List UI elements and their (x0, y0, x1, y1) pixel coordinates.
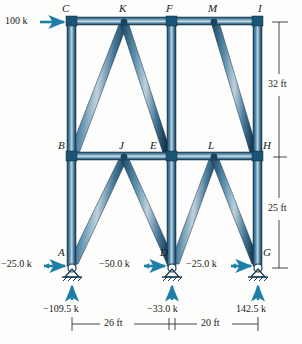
reaction-label-h-G: −25.0 k (186, 259, 217, 269)
node-label-B: B (58, 140, 65, 151)
reaction-label-v-D: −33.0 k (147, 304, 178, 314)
truss-diagram-figure: C K F M I B J E L H A D G 100 k −25.0 k … (0, 0, 302, 344)
dimension-label-25ft: 25 ft (268, 203, 287, 213)
node-label-J: J (119, 140, 124, 151)
reaction-arrow-v-A (69, 286, 75, 300)
reaction-arrow-v-G (255, 286, 261, 300)
dimension-label-32ft: 32 ft (268, 79, 287, 89)
dimension-label-26ft: 26 ft (104, 318, 123, 328)
node-label-C: C (62, 3, 69, 14)
reaction-label-h-D: −50.0 k (99, 259, 130, 269)
dimension-lines-vertical (272, 22, 288, 268)
reaction-arrow-h-A (44, 263, 65, 269)
node-label-H: H (263, 140, 271, 151)
truss-drawing (0, 0, 302, 344)
reaction-arrow-h-G (231, 263, 251, 269)
node-label-K: K (119, 3, 126, 14)
dimension-label-20ft: 20 ft (201, 318, 220, 328)
node-label-I: I (258, 3, 262, 14)
reaction-label-v-G: 142.5 k (236, 304, 266, 314)
reaction-label-v-A: −109.5 k (43, 304, 79, 314)
node-label-L: L (208, 140, 214, 151)
node-label-A: A (58, 247, 65, 258)
reaction-arrow-v-D (169, 286, 175, 300)
load-label-100k: 100 k (5, 16, 28, 26)
truss-diagonal-members (68, 22, 260, 264)
node-label-M: M (208, 3, 217, 14)
dimension-lines-horizontal (72, 317, 258, 331)
reaction-label-h-A: −25.0 k (1, 259, 32, 269)
node-label-G: G (263, 247, 271, 258)
node-label-E: E (150, 140, 157, 151)
reaction-arrow-h-D (144, 263, 165, 269)
node-label-D: D (160, 247, 168, 258)
node-label-F: F (166, 3, 173, 14)
